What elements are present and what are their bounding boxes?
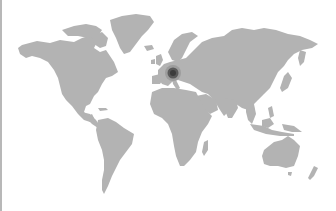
map-marker[interactable] — [165, 65, 181, 81]
continent-australia — [262, 136, 300, 168]
island-tasmania — [288, 172, 292, 176]
island-ireland — [151, 59, 155, 64]
island-borneo — [262, 118, 274, 128]
continent-south-america — [96, 118, 134, 194]
island-new-guinea — [282, 124, 302, 132]
region-southeast-asia — [246, 104, 256, 124]
world-map[interactable] — [0, 0, 336, 211]
island-madagascar — [202, 140, 208, 156]
island-new-zealand — [308, 166, 318, 180]
island-iceland — [144, 45, 154, 51]
island-japan — [280, 72, 292, 92]
island-philippines — [268, 106, 274, 118]
island-caribbean — [98, 108, 108, 111]
region-kamchatka — [298, 50, 306, 66]
island-great-britain — [156, 54, 163, 66]
world-map-svg — [2, 0, 336, 211]
region-india — [224, 98, 238, 118]
